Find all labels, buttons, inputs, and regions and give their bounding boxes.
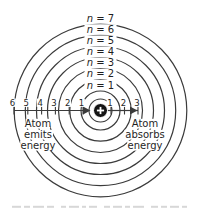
- cropped-caption-remnant: [151, 206, 158, 208]
- emits-annotation-line3: energy: [21, 140, 56, 151]
- cropped-caption-remnant: [61, 206, 66, 208]
- left-tick-label-5: 5: [24, 98, 29, 108]
- cropped-caption-remnant: [182, 206, 187, 208]
- left-tick-label-3: 3: [51, 98, 56, 108]
- bohr-diagram-svg: 654321123n = 1n = 2n = 3n = 4n = 5n = 6n…: [0, 0, 201, 209]
- level-label-n7: n = 7: [87, 13, 114, 24]
- left-tick-label-2: 2: [65, 98, 70, 108]
- cropped-caption-remnant: [89, 206, 97, 208]
- cropped-caption-remnant: [125, 206, 130, 208]
- cropped-caption-remnant: [12, 206, 21, 208]
- level-label-n1: n = 1: [87, 80, 114, 91]
- level-label-n4: n = 4: [87, 46, 114, 57]
- left-tick-label-6: 6: [10, 98, 15, 108]
- cropped-caption-remnant: [82, 206, 86, 208]
- right-tick-label-3: 3: [134, 98, 139, 108]
- cropped-caption-remnant: [47, 206, 54, 208]
- bohr-model-figure: 654321123n = 1n = 2n = 3n = 4n = 5n = 6n…: [0, 0, 201, 209]
- level-label-n5: n = 5: [87, 35, 114, 46]
- cropped-caption-remnant: [24, 206, 30, 208]
- right-tick-label-2: 2: [121, 98, 126, 108]
- emits-annotation-line2: emits: [24, 129, 52, 140]
- cropped-caption-remnant: [170, 206, 179, 208]
- absorbs-annotation-line3: energy: [128, 140, 163, 151]
- absorbs-annotation-line2: absorbs: [125, 129, 164, 140]
- cropped-caption-remnant: [69, 206, 79, 208]
- level-label-n3: n = 3: [87, 57, 114, 68]
- level-label-n2: n = 2: [87, 68, 114, 79]
- right-tick-label-1: 1: [107, 98, 112, 108]
- emits-annotation-line1: Atom: [25, 118, 51, 129]
- left-tick-label-1: 1: [79, 98, 84, 108]
- absorption-arrowhead-icon: [130, 107, 138, 115]
- cropped-caption-remnant: [113, 206, 122, 208]
- cropped-caption-remnant: [133, 206, 144, 208]
- cropped-caption-remnant: [161, 206, 167, 208]
- cropped-caption-remnant: [104, 206, 110, 208]
- left-tick-label-4: 4: [37, 98, 42, 108]
- level-label-n6: n = 6: [87, 24, 114, 35]
- cropped-caption-remnant: [33, 206, 44, 208]
- absorbs-annotation-line1: Atom: [132, 118, 158, 129]
